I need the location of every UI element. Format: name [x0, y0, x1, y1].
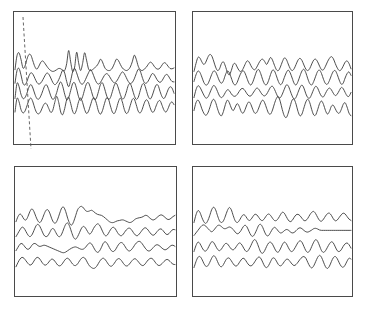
trace-line: [194, 224, 351, 236]
panel-bottom-right: [192, 166, 353, 297]
trace-line: [16, 223, 175, 239]
trace-line: [16, 241, 175, 252]
panel-top-left: [13, 11, 176, 145]
trace-line: [194, 54, 351, 75]
panel-bottom-left: [14, 166, 177, 297]
panel-frame: [15, 167, 177, 297]
trace-line: [194, 255, 351, 268]
multi-panel-timeseries-figure: [0, 0, 367, 315]
trace-line: [194, 96, 351, 117]
panel-frame: [193, 167, 353, 297]
trace-line: [194, 207, 351, 223]
panel-top-right: [192, 11, 353, 145]
trace-line: [194, 69, 351, 85]
trace-line: [194, 240, 351, 254]
panel-frame: [193, 12, 353, 145]
trace-line: [194, 85, 351, 99]
trace-line: [15, 51, 174, 72]
trace-line: [16, 206, 175, 225]
trace-line: [15, 68, 174, 87]
trace-line: [16, 257, 175, 268]
